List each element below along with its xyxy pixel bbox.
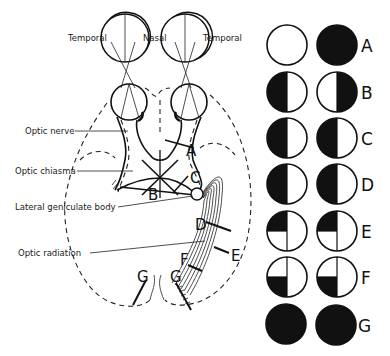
row-label-g: G [358, 316, 371, 336]
nasal-label: Nasal [143, 33, 167, 43]
field-g-left-eye [266, 304, 306, 344]
lesion-marker-g-left: G [137, 268, 149, 286]
field-row-e: E [267, 211, 372, 251]
field-defect-panel: A B C D [266, 25, 374, 345]
row-label-c: C [361, 129, 373, 149]
lateral-geniculate-body-label: Lateral geniculate body [15, 202, 116, 212]
field-g-right-eye [316, 305, 356, 345]
lesion-marker-a: A [186, 142, 197, 160]
lateral-geniculate-body [191, 188, 203, 200]
visual-field-circles [101, 12, 212, 88]
optic-radiation-label: Optic radiation [18, 248, 81, 258]
lesion-marker-g-right: G [170, 268, 182, 286]
row-label-e: E [361, 222, 372, 242]
field-a-right-eye [317, 25, 357, 65]
field-a-left-eye [267, 25, 307, 65]
lesion-marker-e: E [231, 247, 240, 265]
left-temporal-label: Temporal [67, 33, 107, 43]
field-row-d: D [267, 164, 374, 204]
eyes [111, 84, 207, 121]
row-label-d: D [361, 175, 374, 195]
row-label-b: B [361, 83, 373, 103]
field-row-c: C [267, 118, 373, 158]
field-row-g: G [266, 304, 371, 345]
field-row-a: A [267, 25, 373, 65]
row-label-f: F [361, 268, 371, 288]
field-row-b: B [267, 72, 373, 112]
lesion-marker-f: F [180, 251, 189, 269]
visual-pathway-diagram: Temporal Nasal Temporal [0, 0, 390, 356]
optic-nerve-label: Optic nerve [25, 126, 75, 136]
lesion-marker-d: D [195, 216, 207, 234]
lesion-marker-b: B [148, 186, 158, 204]
field-row-f: F [267, 257, 371, 297]
optic-chiasma-label: Optic chiasma [15, 166, 76, 176]
lesion-marker-c: C [190, 169, 200, 187]
row-label-a: A [361, 36, 373, 56]
right-temporal-label: Temporal [202, 33, 242, 43]
